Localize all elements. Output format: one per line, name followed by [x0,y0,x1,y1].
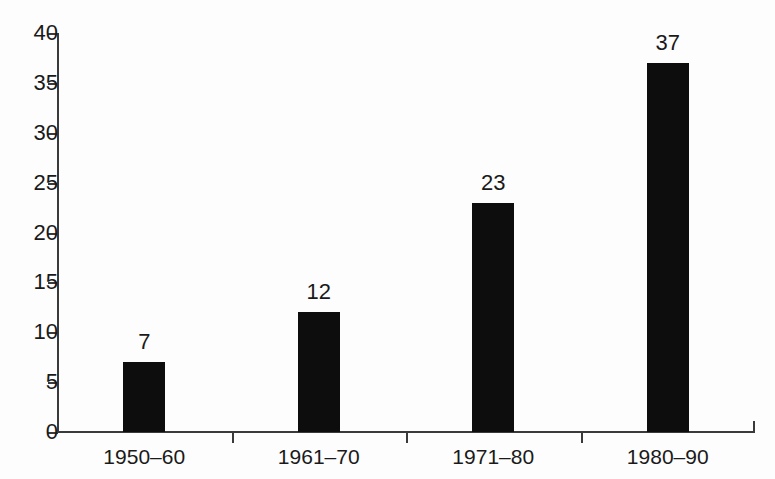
x-axis-tick-mark [406,432,408,443]
y-axis-tick-label: 10 [14,321,58,343]
bar-value-label: 7 [104,331,184,353]
bar [472,203,514,432]
x-axis-category-label: 1950–60 [57,445,232,469]
bar [298,312,340,432]
bar [647,63,689,432]
y-axis-tick-label: 35 [14,72,58,94]
x-axis-tick-mark [581,432,583,443]
bar-chart-figure: 0510152025303540 71950–60121961–70231971… [0,0,775,479]
y-axis-tick-label: 30 [14,122,58,144]
x-axis-category-label: 1961–70 [232,445,407,469]
y-axis-tick-label: 40 [14,22,58,44]
x-axis-category-label: 1980–90 [581,445,756,469]
bar-value-label: 23 [453,172,533,194]
x-axis-end-cap [753,421,755,432]
bar [123,362,165,432]
x-axis-tick-mark [232,432,234,443]
y-axis-tick-label: 5 [14,371,58,393]
x-axis-category-label: 1971–80 [406,445,581,469]
y-axis-tick-label: 15 [14,271,58,293]
y-axis-tick-label: 25 [14,172,58,194]
bar-value-label: 37 [628,32,708,54]
y-axis-tick-label: 0 [14,421,58,443]
y-axis-tick-label: 20 [14,222,58,244]
bar-value-label: 12 [279,281,359,303]
